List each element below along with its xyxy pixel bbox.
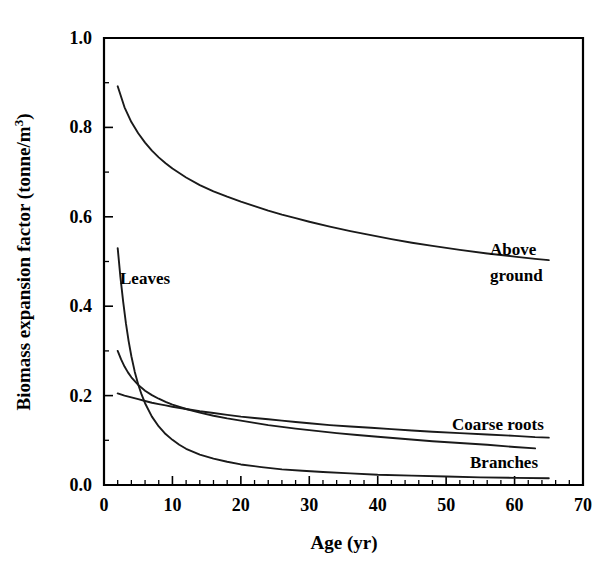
- chart-canvas: 010203040506070 0.00.20.40.60.81.0 Age (…: [0, 0, 616, 571]
- series-label-leaves: Leaves: [120, 269, 170, 288]
- y-tick-label: 0.6: [70, 207, 93, 227]
- x-tick-label: 20: [232, 495, 250, 515]
- series-annotations: Above ground Leaves Coarse roots Branche…: [120, 240, 544, 472]
- x-tick-label: 60: [506, 495, 524, 515]
- x-tick-label: 70: [574, 495, 592, 515]
- y-tick-label: 1.0: [70, 28, 93, 48]
- x-tick-label: 0: [100, 495, 109, 515]
- x-axis-title: Age (yr): [311, 532, 378, 554]
- x-tick-label: 30: [300, 495, 318, 515]
- y-axis-title-text: Biomass expansion factor (tonne/m3): [11, 114, 36, 411]
- y-axis-title-tail: ): [13, 114, 35, 120]
- y-axis-tick-labels: 0.00.20.40.60.81.0: [70, 28, 93, 495]
- y-axis-title-main: Biomass expansion factor (tonne/m: [13, 126, 35, 410]
- x-axis-tick-labels: 010203040506070: [100, 495, 593, 515]
- y-axis-title: Biomass expansion factor (tonne/m3): [11, 114, 36, 411]
- series-label-branches: Branches: [470, 453, 538, 472]
- y-tick-label: 0.0: [70, 475, 93, 495]
- y-tick-label: 0.4: [70, 296, 93, 316]
- data-curve-above-ground: [118, 86, 549, 260]
- series-label-above-ground-line2: ground: [490, 266, 543, 285]
- y-tick-label: 0.8: [70, 117, 93, 137]
- y-tick-label: 0.2: [70, 386, 93, 406]
- series-label-above-ground-line1: Above: [490, 240, 537, 259]
- series-label-coarse-roots: Coarse roots: [452, 415, 544, 434]
- x-tick-label: 50: [437, 495, 455, 515]
- biomass-expansion-factor-chart: 010203040506070 0.00.20.40.60.81.0 Age (…: [0, 0, 616, 571]
- x-tick-label: 40: [369, 495, 387, 515]
- x-tick-label: 10: [163, 495, 181, 515]
